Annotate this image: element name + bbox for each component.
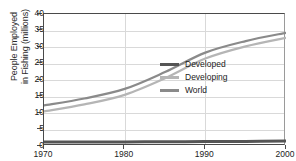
y-axis-tick-label: 0: [20, 141, 44, 150]
y-axis-tick-label: 40: [20, 9, 44, 18]
y-axis-tick-label: 35: [20, 25, 44, 34]
x-axis-tick-label: 2000: [265, 150, 296, 159]
chart-figure: People Employed in Fishing (millions) 05…: [0, 0, 296, 161]
legend-swatch-icon: [160, 63, 179, 66]
legend-swatch-icon: [160, 76, 179, 79]
legend-item-label: World: [185, 86, 207, 95]
legend-swatch-icon: [160, 89, 179, 92]
legend-item[interactable]: Developed: [160, 58, 240, 71]
legend-item[interactable]: Developing: [160, 71, 240, 84]
y-axis-tick-label: 20: [20, 75, 44, 84]
legend: DevelopedDevelopingWorld: [160, 58, 240, 97]
y-axis-tick-label: 5: [20, 124, 44, 133]
legend-item[interactable]: World: [160, 84, 240, 97]
y-axis-label-line1: People Employed: [9, 0, 20, 112]
legend-item-label: Developed: [185, 60, 226, 69]
y-axis-tick-label: 10: [20, 108, 44, 117]
x-axis-tick-label: 1970: [23, 150, 63, 159]
y-axis-tick-label: 15: [20, 91, 44, 100]
series-line-developed: [44, 141, 286, 142]
x-axis-tick-label: 1990: [184, 150, 224, 159]
legend-item-label: Developing: [185, 73, 228, 82]
y-axis-tick-label: 30: [20, 42, 44, 51]
x-axis-tick-label: 1980: [104, 150, 144, 159]
y-axis-tick-label: 25: [20, 58, 44, 67]
